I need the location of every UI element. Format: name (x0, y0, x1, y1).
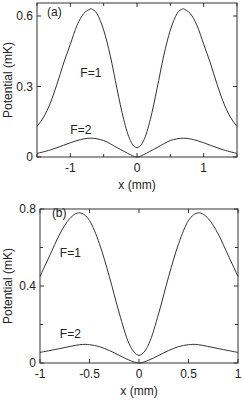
x-tick-label: -0.5 (79, 367, 100, 381)
x-tick-label: -1 (65, 161, 76, 175)
x-tick-label: -1 (35, 367, 46, 381)
figure: -10100.30.6x (mm)Potential (mK)F=1F=2(a)… (0, 0, 244, 401)
y-axis-label: Potential (mK) (1, 42, 15, 118)
annotation: (b) (52, 206, 67, 220)
annotation: F=2 (60, 327, 81, 341)
x-axis-label: x (mm) (120, 384, 157, 398)
y-tick-label: 0 (26, 150, 33, 164)
x-tick-label: 1 (200, 161, 207, 175)
y-tick-label: 0 (29, 356, 36, 370)
y-tick-label: 0.6 (16, 9, 33, 23)
x-tick-label: 0.5 (180, 367, 197, 381)
x-tick-label: 0 (136, 367, 143, 381)
plot-frame (37, 3, 237, 157)
annotation: (a) (47, 5, 62, 19)
series-f-1 (37, 8, 237, 147)
y-tick-label: 0.8 (19, 202, 36, 216)
y-tick-label: 0.4 (19, 279, 36, 293)
panel-b: -1-0.500.5100.40.8x (mm)Potential (mK)F=… (1, 202, 242, 398)
x-axis-label: x (mm) (118, 178, 155, 192)
annotation: F=1 (80, 66, 101, 80)
panel-a: -10100.30.6x (mm)Potential (mK)F=1F=2(a) (1, 3, 237, 192)
y-tick-label: 0.3 (16, 80, 33, 94)
annotation: F=1 (60, 246, 81, 260)
y-axis-label: Potential (mK) (1, 248, 15, 324)
annotation: F=2 (70, 123, 91, 137)
x-tick-label: 0 (134, 161, 141, 175)
x-tick-label: 1 (235, 367, 242, 381)
